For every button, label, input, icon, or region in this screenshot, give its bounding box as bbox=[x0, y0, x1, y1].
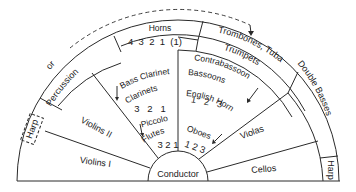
horns-seat-numbers: 4 3 2 1 (1) bbox=[128, 36, 182, 47]
double-basses-top-divider bbox=[288, 72, 298, 93]
clarinet-seat-numbers: 3 2 1 bbox=[134, 103, 166, 114]
harp-left-box: Harp bbox=[21, 113, 44, 144]
violins-2-label: Violins II bbox=[79, 115, 114, 140]
oboes-arrow bbox=[215, 134, 222, 141]
oboes-arrow-head-icon bbox=[212, 139, 216, 144]
harp-right-label: Harp bbox=[326, 160, 336, 180]
flute-seat-numbers: 3 2 1 bbox=[157, 139, 178, 150]
percussion-horns-divider bbox=[114, 36, 121, 52]
double-basses-label: Double Basses bbox=[296, 58, 335, 117]
oboe-seat-numbers: 1 2 3 bbox=[183, 138, 207, 156]
piccolo-label: Piccolo bbox=[140, 113, 169, 130]
conductor-label: Conductor bbox=[157, 169, 199, 179]
orchestra-seating-diagram: Harp Conductor Violins I Violins II Viol… bbox=[0, 0, 356, 192]
bass-clarinet-arrow-head-icon bbox=[115, 97, 119, 101]
double-basses-inner-arc bbox=[288, 93, 323, 181]
cellos-label: Cellos bbox=[251, 163, 277, 175]
horns-label: Horns bbox=[149, 23, 172, 33]
contrabassoon-arrow bbox=[249, 88, 258, 100]
trumpets-left-edge bbox=[196, 40, 198, 51]
violas-label: Violas bbox=[239, 123, 266, 141]
bassoons-label: Bassoons bbox=[188, 67, 227, 85]
harp-right-divider bbox=[320, 156, 338, 158]
violins-1-label: Violins I bbox=[79, 155, 111, 169]
harp-left-label: Harp bbox=[24, 118, 40, 140]
or-label: or bbox=[44, 59, 57, 72]
